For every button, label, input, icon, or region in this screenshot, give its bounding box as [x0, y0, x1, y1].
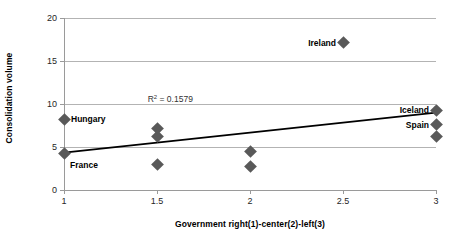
data-point-label: Hungary	[71, 114, 105, 124]
y-tick-label: 0	[52, 185, 57, 195]
y-axis-title: Consolidation volume	[0, 0, 18, 196]
x-tick-label: 3	[433, 196, 438, 206]
y-tick-label: 10	[47, 99, 57, 109]
x-tick-mark	[436, 190, 437, 194]
x-tick-label: 1	[61, 196, 66, 206]
x-axis-title: Government right(1)-center(2)-left(3)	[64, 219, 436, 229]
y-axis-title-text: Consolidation volume	[4, 53, 14, 144]
x-tick-mark	[64, 190, 65, 194]
x-tick-mark	[343, 190, 344, 194]
x-tick-label: 2.5	[337, 196, 350, 206]
x-tick-label: 1.5	[151, 196, 164, 206]
r-squared-annotation: R2 = 0.1579	[148, 93, 193, 104]
data-point-label: Ireland	[308, 38, 336, 48]
x-tick-mark	[250, 190, 251, 194]
y-tick-label: 5	[52, 142, 57, 152]
plot-area: 05101520 11.522.53 HungaryFranceIrelandI…	[64, 18, 436, 190]
y-tick-label: 15	[47, 56, 57, 66]
y-tick-label: 20	[47, 13, 57, 23]
scatter-chart: Consolidation volume 05101520 11.522.53 …	[0, 0, 451, 246]
x-tick-label: 2	[247, 196, 252, 206]
data-point-label: Iceland	[400, 105, 429, 115]
data-point-label: Spain	[406, 120, 429, 130]
r-squared-value: = 0.1579	[157, 94, 193, 104]
x-tick-mark	[157, 190, 158, 194]
data-point-label: France	[70, 160, 98, 170]
